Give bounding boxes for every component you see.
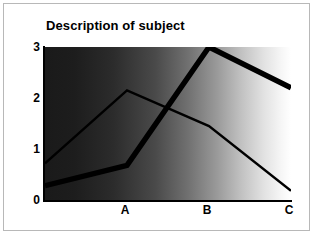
y-tick-label-1: 1 [18,143,40,155]
y-axis-line [43,46,45,202]
plot-area [45,47,291,200]
page-title: Description of subject [46,18,185,33]
series-line-thick [45,47,291,186]
x-tick-label-a: A [112,204,138,216]
y-tick-label-3: 3 [18,41,40,53]
plot-lines [45,47,291,200]
x-tick-label-c: C [276,204,302,216]
y-tick-label-2: 2 [18,92,40,104]
y-axis-tick-labels: 3 2 1 0 [14,4,40,232]
chart-card: Description of subject 3 2 1 0 A B C [3,3,310,231]
x-tick-label-b: B [194,204,220,216]
x-axis-line [43,200,292,202]
y-tick-label-0: 0 [18,194,40,206]
